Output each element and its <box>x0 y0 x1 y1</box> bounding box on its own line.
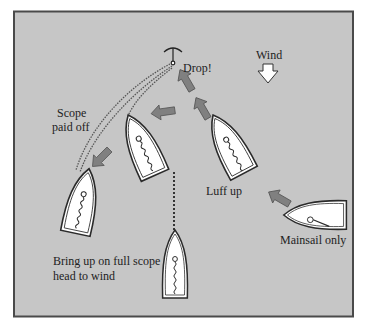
label-mainsail-only: Mainsail only <box>280 233 346 247</box>
label-drop: Drop! <box>183 61 212 75</box>
label-wind: Wind <box>256 48 282 62</box>
label-scope-line1: Scope <box>57 106 86 120</box>
label-bring-up-line2: head to wind <box>53 269 115 283</box>
anchoring-diagram: Drop! Wind Scope paid off Luff up Mainsa… <box>0 0 376 331</box>
label-luff-up: Luff up <box>206 184 242 198</box>
label-bring-up-line1: Bring up on full scope <box>53 254 160 268</box>
label-scope-line2: paid off <box>52 120 89 134</box>
